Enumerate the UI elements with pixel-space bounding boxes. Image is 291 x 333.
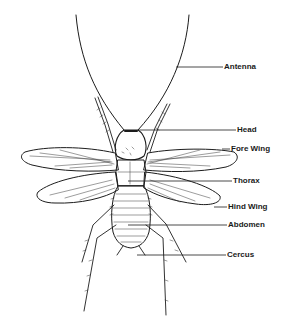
hind-legs [82, 205, 186, 315]
cockroach-anatomy-diagram: Antenna Head Fore Wing Thorax Hind Wing … [0, 0, 291, 333]
label-cercus: Cercus [227, 251, 254, 259]
label-fore-wing: Fore Wing [231, 145, 270, 153]
label-antenna: Antenna [224, 63, 256, 71]
label-head: Head [237, 126, 257, 134]
thorax-shape [116, 160, 146, 186]
label-hind-wing: Hind Wing [228, 203, 267, 211]
hind-wings [37, 172, 220, 205]
head-shape [115, 130, 146, 160]
abdomen-shape [110, 186, 152, 248]
antennae [76, 15, 189, 130]
cockroach-illustration [0, 0, 291, 333]
label-abdomen: Abdomen [228, 221, 265, 229]
cerci [117, 246, 145, 255]
label-thorax: Thorax [233, 177, 260, 185]
